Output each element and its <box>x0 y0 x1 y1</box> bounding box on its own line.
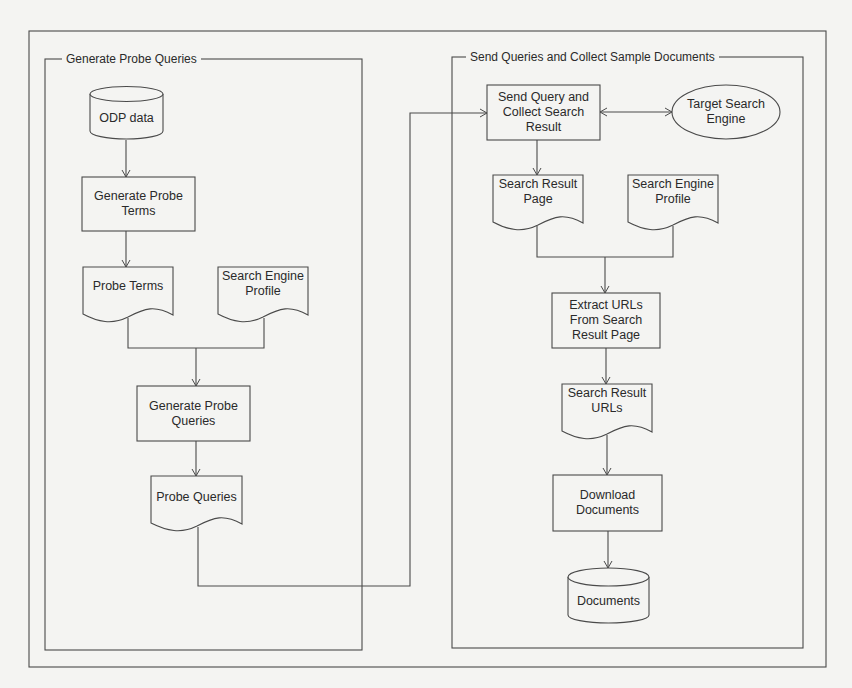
search-result-urls-label: Search Result URLs <box>562 384 652 418</box>
edge-probe-terms-merge <box>128 318 264 348</box>
generate-probe-terms-label: Generate Probe Terms <box>82 177 195 231</box>
probe-queries-label: Probe Queries <box>151 476 242 518</box>
generate-probe-queries-label: Generate Probe Queries <box>137 386 250 441</box>
group-title-right: Send Queries and Collect Sample Document… <box>466 50 719 64</box>
send-query-label: Send Query and Collect Search Result <box>487 85 600 140</box>
download-documents-label: Download Documents <box>553 475 662 531</box>
target-search-engine-label: Target Search Engine <box>672 85 780 139</box>
odp-data-label: ODP data <box>90 104 163 132</box>
group-frame-left <box>45 59 362 650</box>
edge-result-page-merge <box>537 226 673 257</box>
group-title-left: Generate Probe Queries <box>62 52 201 66</box>
search-result-page-label: Search Result Page <box>493 175 583 209</box>
search-engine-profile-left-label: Search Engine Profile <box>218 267 308 301</box>
search-engine-profile-right-label: Search Engine Profile <box>628 175 718 209</box>
documents-label: Documents <box>568 588 649 614</box>
extract-urls-label: Extract URLs From Search Result Page <box>552 293 660 348</box>
probe-terms-label: Probe Terms <box>83 267 173 305</box>
group-frame-right <box>452 57 803 648</box>
